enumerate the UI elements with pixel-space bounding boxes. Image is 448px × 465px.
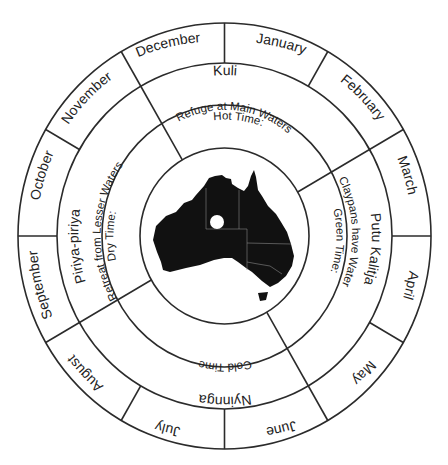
tasmania	[258, 292, 268, 301]
month-august: August	[63, 352, 105, 395]
month-april: April	[400, 270, 422, 302]
season-kuli: Kuli	[213, 62, 238, 79]
month-november: November	[58, 68, 115, 127]
month-october: October	[27, 148, 57, 202]
month-may: May	[349, 358, 379, 388]
month-september: September	[24, 250, 55, 322]
seasonal-wheel: December January February March April Ma…	[0, 0, 448, 465]
season-putu-kalitja: Putu Kalitja	[361, 212, 385, 287]
season-piriya-piriya: Piriya-piriya	[65, 208, 88, 286]
month-december: December	[133, 29, 201, 60]
cold-time-title: Cold Time	[197, 359, 253, 374]
location-marker	[210, 215, 224, 229]
australia-map	[153, 170, 294, 301]
month-january: January	[255, 30, 308, 57]
dry-time-title: Dry Time:	[103, 209, 118, 262]
